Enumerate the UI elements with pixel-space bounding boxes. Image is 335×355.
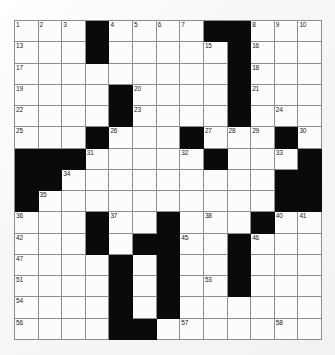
- crossword-cell[interactable]: [62, 42, 86, 63]
- crossword-cell[interactable]: 3: [62, 21, 86, 42]
- crossword-cell[interactable]: 37: [109, 212, 133, 233]
- crossword-cell[interactable]: [86, 85, 110, 106]
- crossword-cell[interactable]: [275, 234, 299, 255]
- crossword-cell[interactable]: [39, 255, 63, 276]
- crossword-cell[interactable]: [133, 170, 157, 191]
- crossword-cell[interactable]: [86, 170, 110, 191]
- crossword-cell[interactable]: [109, 64, 133, 85]
- crossword-cell[interactable]: [39, 127, 63, 148]
- crossword-cell[interactable]: [251, 149, 275, 170]
- crossword-cell[interactable]: 29: [251, 127, 275, 148]
- crossword-cell[interactable]: [251, 106, 275, 127]
- crossword-grid[interactable]: 1234567891013151617181920212223242526272…: [14, 20, 322, 340]
- crossword-cell[interactable]: [39, 212, 63, 233]
- crossword-cell[interactable]: [204, 191, 228, 212]
- crossword-cell[interactable]: [157, 170, 181, 191]
- crossword-cell[interactable]: [298, 319, 322, 340]
- crossword-cell[interactable]: [62, 319, 86, 340]
- crossword-cell[interactable]: [133, 212, 157, 233]
- crossword-cell[interactable]: [109, 191, 133, 212]
- crossword-cell[interactable]: [275, 85, 299, 106]
- crossword-cell[interactable]: [157, 191, 181, 212]
- crossword-cell[interactable]: 42: [15, 234, 39, 255]
- crossword-cell[interactable]: [157, 42, 181, 63]
- crossword-cell[interactable]: 32: [180, 149, 204, 170]
- crossword-cell[interactable]: [204, 319, 228, 340]
- crossword-cell[interactable]: 1: [15, 21, 39, 42]
- crossword-cell[interactable]: 21: [251, 85, 275, 106]
- crossword-cell[interactable]: [133, 191, 157, 212]
- crossword-cell[interactable]: [228, 319, 252, 340]
- crossword-cell[interactable]: [275, 255, 299, 276]
- crossword-cell[interactable]: [251, 276, 275, 297]
- crossword-cell[interactable]: 34: [62, 170, 86, 191]
- crossword-cell[interactable]: [157, 85, 181, 106]
- crossword-cell[interactable]: [39, 42, 63, 63]
- crossword-cell[interactable]: 45: [180, 234, 204, 255]
- crossword-cell[interactable]: [251, 255, 275, 276]
- crossword-cell[interactable]: [86, 191, 110, 212]
- crossword-cell[interactable]: [109, 42, 133, 63]
- crossword-cell[interactable]: [109, 149, 133, 170]
- crossword-cell[interactable]: [62, 255, 86, 276]
- crossword-cell[interactable]: 7: [180, 21, 204, 42]
- crossword-cell[interactable]: [62, 234, 86, 255]
- crossword-cell[interactable]: [180, 212, 204, 233]
- crossword-cell[interactable]: [204, 64, 228, 85]
- crossword-cell[interactable]: 46: [251, 234, 275, 255]
- crossword-cell[interactable]: [62, 85, 86, 106]
- crossword-cell[interactable]: 4: [109, 21, 133, 42]
- crossword-cell[interactable]: 33: [275, 149, 299, 170]
- crossword-cell[interactable]: 9: [275, 21, 299, 42]
- crossword-cell[interactable]: 19: [15, 85, 39, 106]
- crossword-cell[interactable]: 53: [204, 276, 228, 297]
- crossword-cell[interactable]: [298, 255, 322, 276]
- crossword-cell[interactable]: [62, 127, 86, 148]
- crossword-cell[interactable]: 18: [251, 64, 275, 85]
- crossword-cell[interactable]: [86, 297, 110, 318]
- crossword-cell[interactable]: 47: [15, 255, 39, 276]
- crossword-cell[interactable]: [228, 149, 252, 170]
- crossword-cell[interactable]: [204, 170, 228, 191]
- crossword-cell[interactable]: [86, 319, 110, 340]
- crossword-cell[interactable]: [180, 64, 204, 85]
- crossword-cell[interactable]: [298, 42, 322, 63]
- crossword-cell[interactable]: [251, 170, 275, 191]
- crossword-cell[interactable]: [204, 106, 228, 127]
- crossword-cell[interactable]: [180, 276, 204, 297]
- crossword-cell[interactable]: [157, 319, 181, 340]
- crossword-cell[interactable]: [228, 191, 252, 212]
- crossword-cell[interactable]: 13: [15, 42, 39, 63]
- crossword-cell[interactable]: 27: [204, 127, 228, 148]
- crossword-cell[interactable]: 10: [298, 21, 322, 42]
- crossword-cell[interactable]: [133, 255, 157, 276]
- crossword-cell[interactable]: 22: [15, 106, 39, 127]
- crossword-cell[interactable]: [133, 127, 157, 148]
- crossword-cell[interactable]: [180, 297, 204, 318]
- crossword-cell[interactable]: [298, 85, 322, 106]
- crossword-cell[interactable]: [62, 64, 86, 85]
- crossword-cell[interactable]: 41: [298, 212, 322, 233]
- crossword-cell[interactable]: [62, 276, 86, 297]
- crossword-cell[interactable]: [180, 191, 204, 212]
- crossword-cell[interactable]: [251, 319, 275, 340]
- crossword-cell[interactable]: 28: [228, 127, 252, 148]
- crossword-cell[interactable]: [86, 255, 110, 276]
- crossword-cell[interactable]: [157, 64, 181, 85]
- crossword-cell[interactable]: [133, 64, 157, 85]
- crossword-cell[interactable]: [204, 85, 228, 106]
- crossword-cell[interactable]: 8: [251, 21, 275, 42]
- crossword-cell[interactable]: [251, 191, 275, 212]
- crossword-cell[interactable]: 40: [275, 212, 299, 233]
- crossword-cell[interactable]: 30: [298, 127, 322, 148]
- crossword-cell[interactable]: 31: [86, 149, 110, 170]
- crossword-cell[interactable]: [180, 106, 204, 127]
- crossword-cell[interactable]: [275, 276, 299, 297]
- crossword-grid-container[interactable]: 1234567891013151617181920212223242526272…: [14, 20, 322, 340]
- crossword-cell[interactable]: [62, 212, 86, 233]
- crossword-cell[interactable]: [39, 106, 63, 127]
- crossword-cell[interactable]: [39, 276, 63, 297]
- crossword-cell[interactable]: [298, 234, 322, 255]
- crossword-cell[interactable]: [275, 64, 299, 85]
- crossword-cell[interactable]: 36: [15, 212, 39, 233]
